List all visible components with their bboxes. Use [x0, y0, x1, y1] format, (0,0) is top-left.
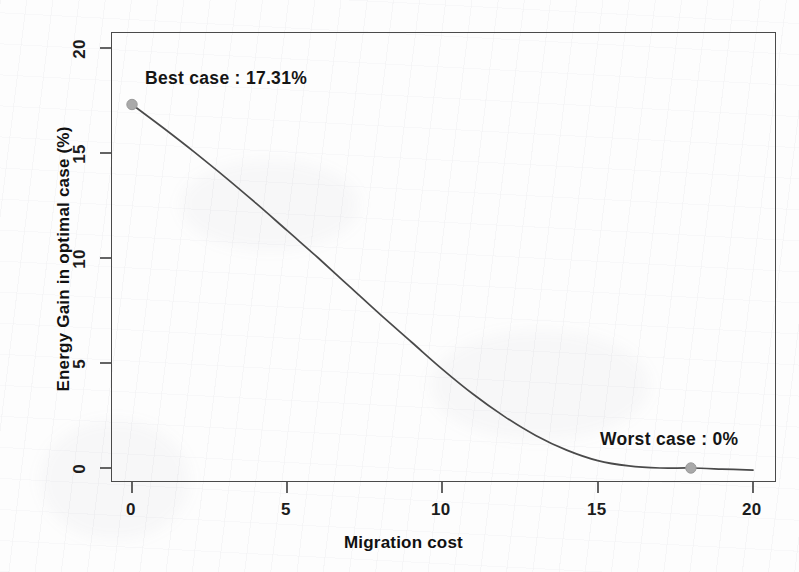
y-axis-ticks: [100, 48, 111, 468]
y-tick-label-0: 0: [70, 459, 90, 479]
x-tick-label-2: 10: [431, 500, 450, 520]
x-tick-label-1: 5: [281, 500, 291, 520]
x-tick-label-4: 20: [742, 500, 761, 520]
chart-root: 0 5 10 15 20 0 5 10 15 20 Energy Gain in…: [0, 0, 799, 572]
x-tick-label-0: 0: [126, 500, 136, 520]
x-tick-label-3: 15: [587, 500, 606, 520]
x-axis-ticks: [132, 482, 753, 493]
best-case-label: Best case : 17.31%: [145, 68, 307, 89]
y-tick-label-4: 20: [70, 35, 90, 63]
plot-frame: [111, 32, 776, 482]
y-axis-title: Energy Gain in optimal case (%): [54, 109, 74, 409]
x-axis-title: Migration cost: [344, 533, 463, 553]
worst-case-label: Worst case : 0%: [600, 429, 738, 450]
